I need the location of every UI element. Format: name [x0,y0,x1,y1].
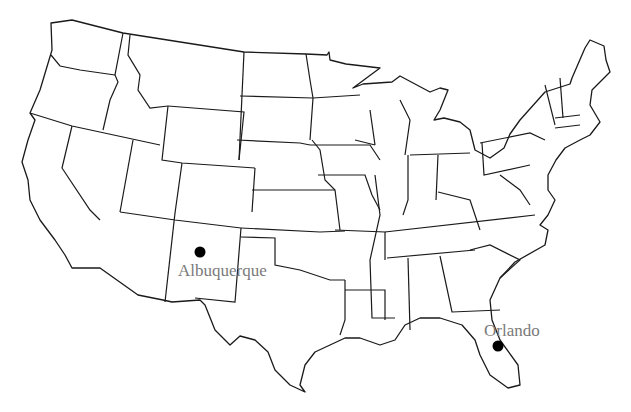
albuquerque-dot [195,247,206,258]
albuquerque-label: Albuquerque [178,262,267,279]
us-map [0,0,631,412]
orlando-dot [493,341,504,352]
orlando-label: Orlando [484,322,540,339]
